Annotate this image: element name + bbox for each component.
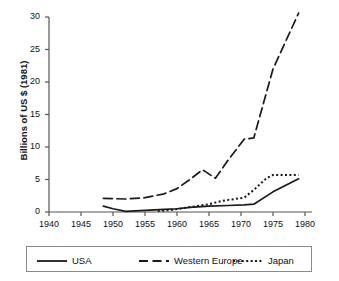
legend-label: Japan — [268, 255, 294, 266]
y-tick-label: 30 — [18, 11, 40, 21]
axes — [49, 17, 312, 212]
y-tick-label: 5 — [18, 174, 40, 184]
line-chart: Billions of US $ (1981) 051015202530 194… — [0, 0, 339, 281]
x-tick-label: 1960 — [162, 219, 192, 229]
legend-key-dotted-icon — [233, 256, 263, 264]
x-tick-label: 1940 — [34, 219, 64, 229]
x-tick-label: 1980 — [290, 219, 320, 229]
y-tick-label: 20 — [18, 76, 40, 86]
series-line-usa — [103, 179, 298, 212]
x-tick-label: 1950 — [98, 219, 128, 229]
x-tick-label: 1975 — [258, 219, 288, 229]
legend-label: USA — [72, 255, 92, 266]
legend-item-japan[interactable]: Japan — [233, 251, 294, 269]
legend-item-usa[interactable]: USA — [37, 251, 92, 269]
x-tick-label: 1970 — [226, 219, 256, 229]
plot-area — [0, 0, 339, 281]
x-tick-label: 1945 — [66, 219, 96, 229]
legend-key-solid-icon — [37, 256, 67, 264]
series-line-western-europe — [103, 13, 298, 199]
y-tick-label: 10 — [18, 141, 40, 151]
legend: USAWestern EuropeJapan — [26, 246, 312, 272]
legend-key-dashed-icon — [139, 256, 169, 264]
data-series-group — [103, 13, 298, 211]
y-tick-label: 15 — [18, 109, 40, 119]
legend-item-western-europe[interactable]: Western Europe — [139, 251, 242, 269]
x-tick-label: 1955 — [130, 219, 160, 229]
y-tick-label: 25 — [18, 44, 40, 54]
x-tick-marks — [49, 212, 305, 216]
x-tick-label: 1965 — [194, 219, 224, 229]
y-tick-label: 0 — [18, 206, 40, 216]
